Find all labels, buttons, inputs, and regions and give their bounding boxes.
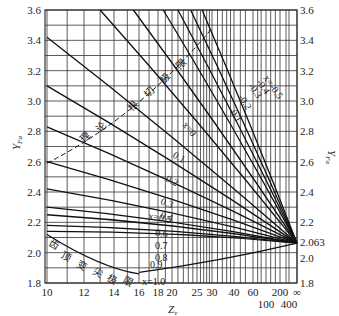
tip-limit-label: 顶 [59, 249, 73, 264]
y-tick-label-right: 3.2 [300, 65, 314, 77]
tip-limit-label: 极 [105, 271, 120, 286]
y-tick-label-right: 2.063 [300, 236, 325, 248]
y-tick-label: 2.8 [27, 125, 41, 137]
y-tick-label: 3.0 [27, 95, 41, 107]
x-tick-label: 200 [272, 286, 289, 298]
y-tick-label: 3.2 [27, 65, 41, 77]
tooth-form-factor-chart: x=-0.5-0.4-0.3-0.2-0.1x=00.10.20.30.4x=0… [0, 0, 339, 316]
curve-label: 0.6 [155, 227, 168, 239]
y-axis-label: YFa [10, 136, 24, 150]
y-tick-label: 2.2 [27, 216, 41, 228]
undercut-limit-label: 理 [78, 130, 93, 145]
x-tick-label: 40 [229, 286, 241, 298]
curve-label: 0.3 [159, 196, 175, 211]
curve-label: 0.7 [155, 240, 168, 251]
y-tick-label: 1.8 [27, 277, 41, 289]
y-tick-label-right: 1.8 [300, 277, 314, 289]
x-tick-label: 30 [207, 286, 219, 298]
y-tick-label-right: 3.4 [300, 34, 314, 46]
x-tick-label: 400 [281, 298, 298, 310]
y-tick-label-right: 3.6 [300, 4, 314, 16]
x-tick-label: 10 [42, 286, 54, 298]
y-tick-label-right: 2.4 [300, 186, 314, 198]
y-tick-label: 2.0 [27, 247, 41, 259]
x-tick-label: 25 [192, 286, 204, 298]
y-tick-label: 2.4 [27, 186, 41, 198]
tip-limit-label: 变 [75, 257, 90, 272]
undercut-limit-label: 极 [157, 70, 173, 86]
tip-limit-label: 齿 [47, 237, 61, 252]
x-tick-label: 16 [134, 286, 146, 298]
y-tick-label: 2.6 [27, 156, 41, 168]
x-axis-label: Zv [168, 303, 178, 316]
y-tick-label: 3.6 [27, 4, 41, 16]
y-tick-label-right: 2.2 [300, 216, 314, 228]
y-tick-label-right: 2.6 [300, 156, 314, 168]
x-tick-label: ∞ [293, 286, 301, 298]
y-tick-label-right: 3.0 [300, 95, 314, 107]
x-tick-label: 20 [167, 286, 179, 298]
undercut-limit-label: 切 [142, 85, 157, 100]
x-tick-label: 14 [109, 286, 121, 298]
y-tick-label-right: 2.8 [300, 125, 314, 137]
y-tick-label-right: 2.0 [300, 252, 314, 264]
y-axis-label-right: YFa [324, 150, 338, 164]
x-tick-label: 12 [79, 286, 90, 298]
tip-limit-label: 尖 [91, 264, 106, 279]
x-tick-label: 60 [248, 286, 260, 298]
x-tick-label: 18 [153, 286, 165, 298]
y-tick-label: 3.4 [27, 34, 41, 46]
x-tick-label: 100 [258, 298, 275, 310]
curve-label: 0.9 [150, 259, 163, 270]
curve-x=-0.5 [202, 10, 297, 243]
undercut-limit-curve [47, 28, 212, 163]
